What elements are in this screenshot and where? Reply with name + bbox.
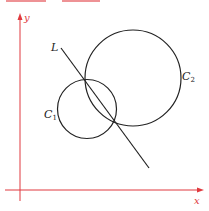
label-c2: C2 [182, 70, 195, 84]
label-c2-sub: 2 [190, 76, 194, 84]
circle-c2 [85, 30, 181, 126]
label-c1-sub: 1 [52, 114, 56, 122]
y-axis-label: y [23, 12, 30, 23]
diagram-canvas: y x L C1 C2 [0, 0, 209, 211]
label-l-text: L [50, 41, 58, 54]
circle-c1 [58, 80, 117, 139]
x-axis-arrow-icon [197, 188, 204, 193]
line-l [61, 48, 149, 168]
label-c1: C1 [44, 108, 57, 122]
label-l: L [50, 41, 58, 54]
x-axis-label: x [194, 195, 200, 206]
y-axis-arrow-icon [18, 13, 23, 20]
header-text-fragment [6, 0, 100, 2]
